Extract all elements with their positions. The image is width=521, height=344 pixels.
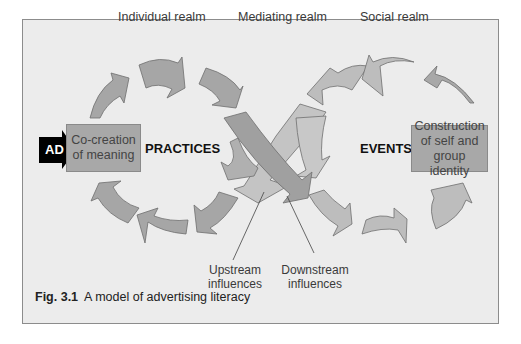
cycle-arrow-icon <box>139 57 185 98</box>
cycle-arrow-icon <box>431 183 472 229</box>
construction-line-3: group identity <box>412 149 487 179</box>
upstream-line-2: influences <box>205 277 265 291</box>
co-creation-line-1: Co-creation <box>71 133 136 148</box>
cycle-arrow-icon <box>91 181 139 223</box>
cycle-arrow-icon <box>424 66 474 103</box>
practices-label: PRACTICES <box>145 141 220 156</box>
co-creation-line-2: of meaning <box>73 148 135 163</box>
downstream-influences-label: Downstream influences <box>280 263 350 291</box>
ad-label: AD <box>45 142 64 157</box>
events-label: EVENTS <box>360 141 412 156</box>
cycle-arrow-icon <box>362 55 414 96</box>
cycle-arrow-icon <box>194 192 238 234</box>
construction-line-1: Construction <box>414 119 484 134</box>
figure-number: Fig. 3.1 <box>35 290 78 304</box>
realm-label-individual: Individual realm <box>118 10 206 24</box>
upstream-leader-line <box>233 192 264 260</box>
cycle-arrow-icon <box>307 65 368 105</box>
crossing-arrow-icon <box>296 116 330 178</box>
cycle-arrow-icon <box>137 208 188 243</box>
downstream-leader-line <box>287 196 314 253</box>
co-creation-box: Co-creation of meaning <box>66 124 141 172</box>
cycle-arrow-icon <box>309 190 352 236</box>
downstream-line-1: Downstream <box>280 263 350 277</box>
construction-line-2: of self and <box>421 134 479 149</box>
construction-identity-box: Construction of self and group identity <box>411 125 488 172</box>
upstream-influences-label: Upstream influences <box>205 263 265 291</box>
cycle-arrow-icon <box>90 73 129 118</box>
realm-label-social: Social realm <box>360 10 429 24</box>
realm-label-mediating: Mediating realm <box>238 10 327 24</box>
upstream-line-1: Upstream <box>205 263 265 277</box>
cycle-arrow-icon <box>362 208 407 243</box>
figure-title: A model of advertising literacy <box>84 290 250 304</box>
downstream-line-2: influences <box>280 277 350 291</box>
figure-caption: Fig. 3.1A model of advertising literacy <box>35 290 250 304</box>
cycle-arrow-icon <box>199 68 243 108</box>
